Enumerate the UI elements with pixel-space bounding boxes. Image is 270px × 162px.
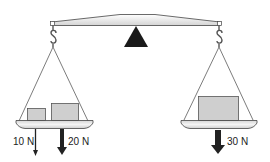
force-label-30n: 30 N <box>227 137 248 147</box>
right-box <box>199 97 239 121</box>
right-hook-icon <box>217 26 222 47</box>
force-label-10n: 10 N <box>13 137 34 147</box>
fulcrum-triangle <box>124 26 148 47</box>
left-pan <box>16 121 93 129</box>
left-hook-icon <box>51 26 56 47</box>
left-small-box <box>28 109 46 121</box>
balance-scale-diagram: 10 N 20 N 30 N <box>0 0 270 162</box>
force-label-20n: 20 N <box>68 137 89 147</box>
beam-left-end-cap <box>51 22 55 26</box>
beam <box>51 15 222 26</box>
force-arrow-20n <box>57 129 67 155</box>
right-pan <box>181 121 257 129</box>
beam-right-end-cap <box>218 22 222 26</box>
force-arrow-30n <box>211 130 225 154</box>
left-large-box <box>52 104 79 121</box>
